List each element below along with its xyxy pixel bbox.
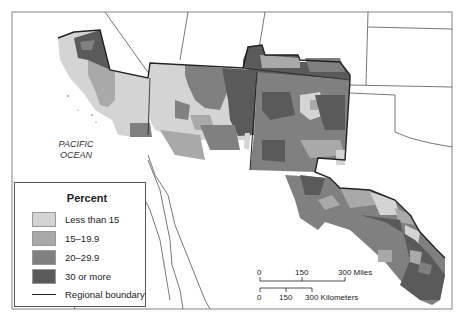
pacific-ocean-label: PACIFIC OCEAN (46, 139, 106, 161)
scale-km-tick-150: 150 (279, 293, 292, 302)
scale-miles-tick-150: 150 (295, 268, 308, 277)
legend-item: 20–29.9 (32, 249, 99, 265)
legend-item: Less than 15 (32, 211, 119, 227)
legend: Percent Less than 15 15–19.9 20–29.9 30 … (14, 182, 146, 307)
legend-label: 15–19.9 (65, 233, 99, 244)
legend-label: 30 or more (65, 271, 111, 282)
legend-item-boundary: Regional boundary (32, 286, 145, 302)
scale-km-tick-0: 0 (257, 293, 261, 302)
ocean-label-line2: OCEAN (46, 150, 106, 161)
scale-miles-tick-0: 0 (257, 268, 261, 277)
legend-label: Less than 15 (65, 214, 119, 225)
boundary-line-sample (32, 294, 56, 295)
legend-label: Regional boundary (65, 289, 145, 300)
legend-swatch-30-or-more (32, 269, 56, 284)
region-new-mexico (250, 72, 350, 172)
legend-title: Percent (15, 192, 145, 204)
legend-label: 20–29.9 (65, 252, 99, 263)
legend-swatch-15-19 (32, 231, 56, 246)
legend-item: 30 or more (32, 268, 111, 284)
legend-swatch-less-than-15 (32, 212, 56, 227)
ocean-label-line1: PACIFIC (46, 139, 106, 150)
scale-km-tick-300: 300 Kilometers (305, 293, 358, 302)
scale-miles-tick-300: 300 Miles (338, 268, 372, 277)
legend-item: 15–19.9 (32, 230, 99, 246)
legend-swatch-20-29 (32, 250, 56, 265)
